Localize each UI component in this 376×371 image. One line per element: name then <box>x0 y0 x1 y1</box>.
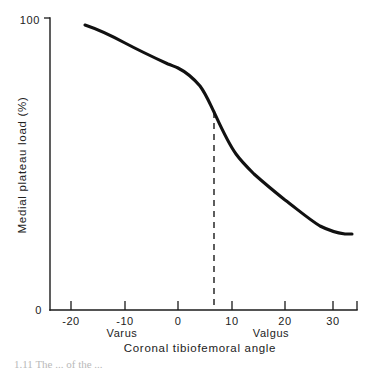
x-tick-label-20: 20 <box>278 315 291 327</box>
region-label-valgus: Valgus <box>253 327 289 339</box>
y-tick-label-100: 100 <box>20 14 40 26</box>
chart-canvas: 100 0 -20 -10 0 10 20 30 Varus Valgus Co… <box>0 0 376 371</box>
data-curve-medial-plateau-load <box>85 25 352 234</box>
region-label-varus: Varus <box>107 327 138 339</box>
y-axis-title: Medial plateau load (%) <box>16 97 28 234</box>
x-tick-label--10: -10 <box>116 315 134 327</box>
x-tick-label--20: -20 <box>62 315 80 327</box>
y-tick-label-0: 0 <box>35 304 42 316</box>
figure-root: 100 0 -20 -10 0 10 20 30 Varus Valgus Co… <box>0 0 376 371</box>
x-tick-label-10: 10 <box>225 315 238 327</box>
x-tick-label-30: 30 <box>326 315 339 327</box>
x-tick-label-0: 0 <box>175 315 182 327</box>
figure-caption-partial: 1.11 The ... of the ... <box>0 360 376 371</box>
x-axis-title: Coronal tibiofemoral angle <box>124 342 276 354</box>
